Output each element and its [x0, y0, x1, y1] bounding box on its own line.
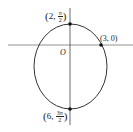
label-bottom-theta-num: 3π — [56, 110, 64, 117]
label-bottom-theta-den: 2 — [56, 117, 64, 123]
label-right-point: (3, 0) — [100, 35, 117, 43]
label-top-point: (2, π2) — [45, 10, 66, 23]
label-bottom-r: 6 — [47, 111, 52, 121]
label-bottom-theta: 3π2 — [56, 110, 64, 123]
ellipse-curve — [34, 24, 107, 109]
label-top-r: 2 — [49, 11, 54, 21]
origin-label: O — [60, 49, 66, 57]
point-right — [99, 43, 103, 47]
point-top — [68, 22, 72, 26]
label-bottom-point: (6, 3π2) — [43, 110, 67, 123]
point-bottom — [68, 107, 72, 111]
